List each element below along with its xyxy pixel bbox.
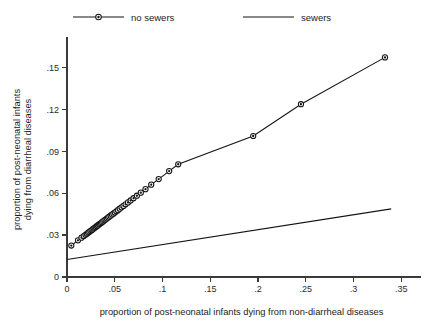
data-point-center (177, 163, 179, 165)
y-axis-title-line2: dying from diarrheal diseases (23, 98, 33, 220)
y-tick-label: .15 (46, 63, 59, 73)
x-tick-label: 0 (64, 284, 69, 294)
data-point-center (384, 56, 386, 58)
x-axis-tick-labels: 0.05.1.15.2.25.3.35 (64, 284, 407, 294)
chart-figure: no sewerssewers 0.05.1.15.2.25.3.35 0.03… (0, 0, 434, 327)
data-point-center (158, 178, 160, 180)
data-point-center (140, 192, 142, 194)
x-tick-label: .15 (204, 284, 217, 294)
legend-marker-center-no-sewers (97, 16, 99, 18)
legend-label-no-sewers: no sewers (131, 12, 175, 23)
y-tick-label: .12 (46, 105, 59, 115)
y-tick-label: .06 (46, 188, 59, 198)
chart-series (67, 55, 391, 260)
x-tick-label: .3 (350, 284, 358, 294)
y-tick-label: .09 (46, 147, 59, 157)
y-axis-title-line1: proportion of post-neonatal infants (12, 89, 22, 230)
chart-axis-titles: proportion of post-neonatal infants dyin… (12, 89, 384, 317)
series-line-sewers (67, 209, 391, 260)
x-tick-label: .35 (395, 284, 408, 294)
data-point-center (150, 184, 152, 186)
data-point-center (168, 170, 170, 172)
x-axis-title: proportion of post-neonatal infants dyin… (100, 307, 384, 317)
x-tick-label: .05 (108, 284, 121, 294)
data-point-center (252, 135, 254, 137)
legend-label-sewers: sewers (301, 12, 331, 23)
data-point-center (70, 244, 72, 246)
chart-legend: no sewerssewers (73, 12, 331, 23)
scatter-plot: no sewerssewers 0.05.1.15.2.25.3.35 0.03… (0, 0, 434, 327)
data-point-center (144, 188, 146, 190)
x-tick-label: .25 (299, 284, 312, 294)
chart-axes (67, 37, 421, 277)
data-point-center (300, 103, 302, 105)
data-point-center (136, 195, 138, 197)
x-tick-label: .2 (254, 284, 262, 294)
y-tick-label: 0 (54, 272, 59, 282)
y-tick-label: .03 (46, 230, 59, 240)
chart-tick-marks (62, 67, 401, 282)
data-point-center (77, 239, 79, 241)
y-axis-tick-labels: 0.03.06.09.12.15 (46, 63, 59, 283)
x-tick-label: .1 (159, 284, 167, 294)
